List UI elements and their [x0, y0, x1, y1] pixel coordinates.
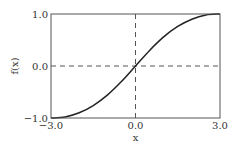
function-curve	[51, 14, 220, 118]
x-tick-label: 3.0	[212, 120, 228, 131]
chart: 1.0 0.0 −1.0 −3.0 0.0 3.0 x f(x)	[0, 0, 240, 150]
y-tick-label: 0.0	[32, 61, 48, 72]
y-axis-label: f(x)	[9, 57, 20, 74]
y-tick-label: 1.0	[32, 9, 48, 20]
x-axis-label: x	[133, 132, 139, 143]
x-tick-label: −3.0	[39, 120, 63, 131]
x-tick-label: 0.0	[128, 120, 144, 131]
